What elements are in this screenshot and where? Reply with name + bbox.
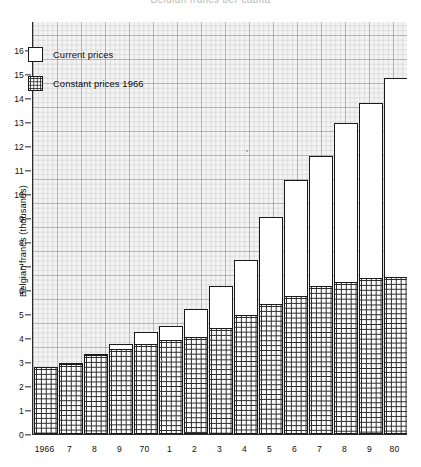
x-axis: 19667897012345678980	[32, 438, 407, 464]
x-axis-tick-label: 3	[217, 444, 222, 454]
bar-segment-constant-prices	[59, 364, 83, 434]
bar-segment-current-prices	[234, 260, 258, 317]
bar-segment-constant-prices	[34, 367, 58, 434]
y-axis-tick-label: 14	[14, 94, 24, 104]
scan-speck	[161, 360, 163, 362]
y-axis-tick-label: 2	[19, 382, 24, 392]
bar-segment-current-prices	[309, 156, 333, 288]
bar-9	[359, 103, 383, 434]
bar-segment-constant-prices	[334, 282, 358, 434]
legend-item-constant-prices: Constant prices 1966	[28, 73, 144, 93]
x-axis-tick-label: 9	[117, 444, 122, 454]
bar-8	[84, 354, 108, 434]
bar-2	[184, 309, 208, 434]
bar-segment-constant-prices	[134, 344, 158, 434]
x-axis-tick-label: 8	[342, 444, 347, 454]
x-axis-tick-label: 80	[390, 444, 400, 454]
x-axis-tick-label: 6	[292, 444, 297, 454]
bar-segment-current-prices	[259, 217, 283, 306]
bar-segment-current-prices	[384, 78, 408, 279]
y-axis-tick-mark	[25, 386, 31, 387]
y-axis-tick-label: 13	[14, 118, 24, 128]
y-axis-tick-mark	[25, 362, 31, 363]
x-axis-tick-label: 2	[192, 444, 197, 454]
legend-swatch-white-icon	[28, 47, 43, 62]
bar-segment-current-prices	[284, 180, 308, 298]
bar-segment-constant-prices	[184, 337, 208, 434]
bar-segment-current-prices	[209, 286, 233, 330]
x-axis-tick-label: 7	[317, 444, 322, 454]
y-axis-tick-mark	[25, 410, 31, 411]
y-axis-tick-label: 4	[19, 334, 24, 344]
bar-segment-constant-prices	[234, 315, 258, 434]
chart-root: Belgian francs per capita 01234567891011…	[0, 0, 421, 467]
scan-speck	[246, 150, 248, 152]
bar-segment-constant-prices	[109, 349, 133, 434]
bar-segment-constant-prices	[209, 328, 233, 434]
bar-1966	[34, 367, 58, 434]
y-axis-title: Belgian francs (thousands)	[18, 166, 28, 316]
legend: Current prices Constant prices 1966	[28, 44, 144, 102]
bar-segment-constant-prices	[359, 278, 383, 434]
bar-segment-constant-prices	[384, 277, 408, 434]
bar-segment-current-prices	[359, 103, 383, 280]
legend-swatch-grid-hatch-icon	[28, 76, 43, 91]
y-axis-tick-label: 16	[14, 46, 24, 56]
x-axis-tick-label: 7	[67, 444, 72, 454]
x-axis-tick-label: 4	[242, 444, 247, 454]
y-axis-tick-mark	[25, 338, 31, 339]
bar-70	[134, 332, 158, 434]
y-axis-tick-label: 12	[14, 142, 24, 152]
x-axis-tick-label: 70	[140, 444, 150, 454]
bar-8	[334, 123, 358, 434]
y-axis-tick-label: 1	[19, 406, 24, 416]
y-axis-tick-mark	[25, 146, 31, 147]
bar-1	[159, 326, 183, 434]
y-axis-tick-mark	[25, 434, 31, 435]
top-clipped-caption: Belgian francs per capita	[0, 0, 421, 3]
y-axis-tick-label: 0	[19, 430, 24, 440]
legend-label-constant-prices: Constant prices 1966	[53, 78, 144, 89]
bar-4	[234, 260, 258, 434]
y-axis-tick-label: 3	[19, 358, 24, 368]
x-axis-tick-label: 9	[367, 444, 372, 454]
bar-segment-constant-prices	[259, 304, 283, 434]
bar-80	[384, 78, 408, 434]
y-axis-tick-mark	[25, 122, 31, 123]
bar-segment-current-prices	[184, 309, 208, 338]
bar-7	[309, 156, 333, 434]
bar-segment-constant-prices	[84, 355, 108, 434]
bar-7	[59, 363, 83, 434]
bar-3	[209, 286, 233, 434]
y-axis-tick-label: 15	[14, 70, 24, 80]
x-axis-tick-label: 1966	[35, 444, 55, 454]
bar-5	[259, 217, 283, 434]
x-axis-tick-label: 8	[92, 444, 97, 454]
bar-segment-constant-prices	[284, 296, 308, 434]
legend-label-current-prices: Current prices	[53, 49, 113, 60]
x-axis-tick-label: 5	[267, 444, 272, 454]
bar-6	[284, 180, 308, 434]
x-axis-tick-label: 1	[167, 444, 172, 454]
bar-9	[109, 344, 133, 434]
legend-item-current-prices: Current prices	[28, 44, 144, 64]
bar-segment-constant-prices	[309, 286, 333, 434]
bar-segment-current-prices	[334, 123, 358, 283]
bar-segment-constant-prices	[159, 340, 183, 434]
